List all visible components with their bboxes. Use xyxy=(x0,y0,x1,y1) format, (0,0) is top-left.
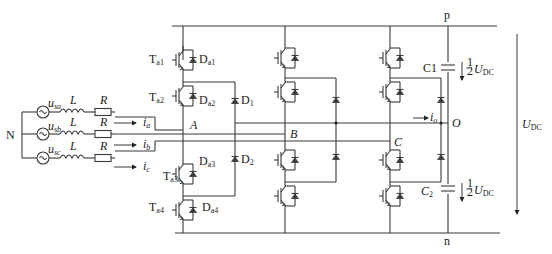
labels: p n O N A B C usa usb usc L L L R R R ia… xyxy=(6,8,542,248)
svg-text:Da2: Da2 xyxy=(199,93,215,108)
phase-lines xyxy=(115,117,390,151)
svg-text:D1: D1 xyxy=(241,93,254,108)
svg-text:L: L xyxy=(69,93,77,107)
svg-text:N: N xyxy=(6,128,15,142)
svg-text:usb: usb xyxy=(48,119,61,134)
svg-text:A: A xyxy=(189,118,198,132)
svg-text:Da3: Da3 xyxy=(199,154,215,169)
svg-text:R: R xyxy=(99,115,108,129)
svg-text:L: L xyxy=(69,139,77,153)
svg-text:p: p xyxy=(444,8,450,22)
svg-text:C1: C1 xyxy=(423,61,437,75)
svg-text:UDC: UDC xyxy=(474,62,494,77)
svg-text:ib: ib xyxy=(143,137,150,152)
svg-text:UDC: UDC xyxy=(522,117,542,132)
svg-text:io: io xyxy=(430,110,437,125)
svg-text:Ta4: Ta4 xyxy=(149,200,164,215)
svg-text:2: 2 xyxy=(467,64,473,78)
svg-text:D2: D2 xyxy=(241,152,254,167)
svg-text:R: R xyxy=(99,93,108,107)
svg-text:Ta1: Ta1 xyxy=(149,52,164,67)
svg-text:UDC: UDC xyxy=(474,183,494,198)
svg-text:L: L xyxy=(69,115,77,129)
npc-rectifier-diagram: p n O N A B C usa usb usc L L L R R R ia… xyxy=(0,0,552,254)
svg-text:n: n xyxy=(444,234,450,248)
ac-sources xyxy=(22,106,136,167)
leg-c xyxy=(379,26,445,233)
svg-text:C2: C2 xyxy=(421,184,433,199)
svg-text:Da4: Da4 xyxy=(202,200,218,215)
svg-text:B: B xyxy=(290,127,298,141)
svg-text:2: 2 xyxy=(467,185,473,199)
neutral-line xyxy=(235,118,448,125)
svg-text:Ta2: Ta2 xyxy=(149,90,164,105)
svg-text:R: R xyxy=(99,139,108,153)
leg-b xyxy=(274,26,340,233)
svg-text:C: C xyxy=(394,135,403,149)
svg-text:O: O xyxy=(452,116,461,130)
svg-text:usc: usc xyxy=(48,142,61,157)
svg-text:usa: usa xyxy=(48,96,61,111)
svg-text:ic: ic xyxy=(143,159,150,174)
svg-text:Da1: Da1 xyxy=(199,52,215,67)
